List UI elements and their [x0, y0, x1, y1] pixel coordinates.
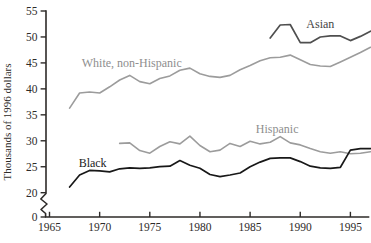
y-tick-label-55: 55	[26, 5, 38, 17]
y-tick-label-50: 50	[26, 31, 38, 43]
x-tick-label-1980: 1980	[188, 221, 211, 233]
x-tick-label-1990: 1990	[289, 221, 312, 233]
y-tick-label-35: 35	[26, 109, 38, 121]
white-non-hispanic-label: White, non-Hispanic	[82, 56, 182, 70]
y-tick-label-40: 40	[26, 83, 38, 95]
hispanic-label: Hispanic	[256, 122, 299, 136]
y-tick-label-20: 20	[26, 187, 38, 199]
black-line	[70, 149, 371, 187]
y-axis-title: Thousands of 1996 dollars	[1, 63, 13, 180]
x-tick-label-1970: 1970	[88, 221, 111, 233]
axis-lines	[41, 11, 369, 217]
y-tick-label-45: 45	[26, 57, 38, 69]
black-label: Black	[79, 156, 107, 170]
asian-label: Asian	[306, 17, 334, 31]
hispanic-line	[120, 136, 371, 154]
y-tick-label-25: 25	[26, 161, 38, 173]
y-tick-label-30: 30	[26, 135, 38, 147]
chart-canvas: 0202530354045505519651970197519801985199…	[0, 0, 371, 243]
x-tick-label-1975: 1975	[138, 221, 161, 233]
x-tick-label-1965: 1965	[38, 221, 61, 233]
x-tick-label-1995: 1995	[339, 221, 362, 233]
y-tick-label-0: 0	[32, 211, 38, 223]
income-by-race-line-chart: 0202530354045505519651970197519801985199…	[0, 0, 371, 243]
x-tick-label-1985: 1985	[239, 221, 262, 233]
